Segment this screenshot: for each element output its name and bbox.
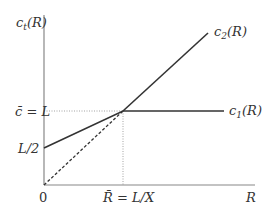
y-axis-label: ct(R) xyxy=(16,15,47,32)
curve-c2-label: c2(R) xyxy=(214,24,247,41)
y-tick-half: L/2 xyxy=(17,141,39,156)
origin-label: 0 xyxy=(39,190,47,205)
curve-c2-dashed xyxy=(44,111,123,185)
x-axis-label: R xyxy=(245,190,256,205)
y-tick-cbar: c̄ = L xyxy=(15,104,50,119)
curve-c2 xyxy=(123,33,208,111)
curve-c1-label: c1(R) xyxy=(229,103,262,120)
curve-c1 xyxy=(44,111,224,148)
diagram-canvas: ct(R) c2(R) c1(R) c̄ = L L/2 0 R̄ = L/X … xyxy=(0,0,269,214)
x-tick-rbar: R̄ = L/X xyxy=(102,190,155,205)
